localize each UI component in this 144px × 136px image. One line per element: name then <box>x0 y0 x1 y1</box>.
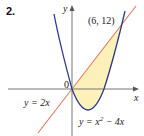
line-equation-label: y = 2x <box>24 98 50 108</box>
problem-number: 2. <box>6 6 15 17</box>
x-axis-label: x <box>134 93 138 103</box>
origin-label: 0 <box>64 80 69 90</box>
shaded-region <box>72 27 120 110</box>
parabola-equation-suffix: − 4x <box>103 116 124 127</box>
parabola-equation-prefix: y = x <box>79 116 100 127</box>
y-axis-arrow-icon <box>70 5 75 11</box>
line-equation-lhs: y = 2 <box>24 97 45 108</box>
intersection-point-label: (6, 12) <box>88 16 115 26</box>
parabola-equation-label: y = x2 − 4x <box>79 117 124 127</box>
x-axis-arrow-icon <box>133 87 139 92</box>
y-axis-label: y <box>63 4 67 14</box>
line-equation-var: x <box>45 97 49 108</box>
figure: 2. y x 0 (6, 12) y = 2x y = x2 − 4x <box>0 0 144 136</box>
